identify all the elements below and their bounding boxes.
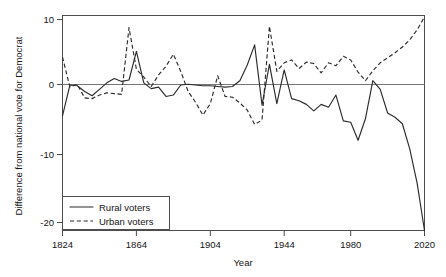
x-tick-labels: 1824 1864 1904 1944 1980 2020 <box>52 239 435 250</box>
chart-figure: Difference from national vote for Democr… <box>0 0 446 277</box>
x-tick-label-2020: 2020 <box>414 239 435 250</box>
y-tick-labels: 10 0 -10 -20 <box>40 14 54 228</box>
y-tick-label-0: 0 <box>49 79 54 90</box>
legend-label-rural: Rural voters <box>99 202 150 213</box>
y-tickmarks <box>57 20 62 223</box>
x-tick-label-1824: 1824 <box>52 239 73 250</box>
y-axis-title: Difference from national vote for Democr… <box>13 36 24 215</box>
x-tick-label-1980: 1980 <box>340 239 361 250</box>
x-tick-label-1864: 1864 <box>126 239 147 250</box>
x-axis-title: Year <box>233 257 252 268</box>
y-tick-label-minus10: -10 <box>40 149 54 160</box>
series-line-urban <box>63 17 425 125</box>
x-tick-label-1904: 1904 <box>200 239 221 250</box>
legend: Rural voters Urban voters <box>63 197 170 230</box>
y-tick-label-minus20: -20 <box>40 217 54 228</box>
x-tickmarks <box>63 231 425 236</box>
x-tick-label-1944: 1944 <box>274 239 295 250</box>
legend-label-urban: Urban voters <box>99 216 154 227</box>
y-tick-label-10: 10 <box>43 14 54 25</box>
y-axis-title-group: Difference from national vote for Democr… <box>13 36 24 215</box>
line-chart: Difference from national vote for Democr… <box>0 0 446 277</box>
